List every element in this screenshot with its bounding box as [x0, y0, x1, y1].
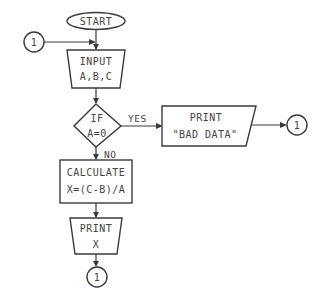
arrowhead-icon [93, 44, 99, 50]
no-label: NO [104, 149, 116, 160]
calculate-node: CALCULATE X=(C-B)/A [60, 160, 132, 203]
print-x-node: PRINT X [70, 218, 122, 254]
calculate-line2: X=(C-B)/A [67, 184, 126, 195]
connector-yes: 1 [287, 115, 307, 135]
arrowhead-icon [93, 154, 99, 160]
decision-node: IF A=0 [74, 104, 121, 147]
print-bad-data-node: PRINT "BAD DATA" [162, 106, 256, 146]
decision-line2: A=0 [87, 128, 107, 139]
input-node: INPUT A,B,C [67, 50, 125, 88]
input-line1: INPUT [80, 56, 113, 67]
print-bad-line1: PRINT [190, 112, 223, 123]
start-label: START [80, 16, 113, 27]
flowchart: 1 START INPUT A,B,C IF A=0 YES PRINT "BA… [0, 0, 323, 302]
decision-line1: IF [90, 113, 103, 124]
connector-in-label: 1 [31, 37, 38, 48]
start-terminal: START [67, 13, 125, 30]
connector-out-label: 1 [94, 272, 101, 283]
yes-label: YES [128, 113, 147, 124]
print-x-line2: X [93, 239, 100, 250]
calculate-line1: CALCULATE [67, 167, 126, 178]
arrowhead-icon [280, 122, 287, 128]
connector-out: 1 [87, 267, 107, 287]
arrowhead-icon [93, 212, 99, 218]
print-bad-line2: "BAD DATA" [172, 129, 237, 140]
connector-in: 1 [24, 32, 44, 52]
connector-yes-label: 1 [294, 120, 301, 131]
print-x-line1: PRINT [80, 223, 113, 234]
arrowhead-icon [93, 261, 99, 267]
input-line2: A,B,C [80, 71, 113, 82]
